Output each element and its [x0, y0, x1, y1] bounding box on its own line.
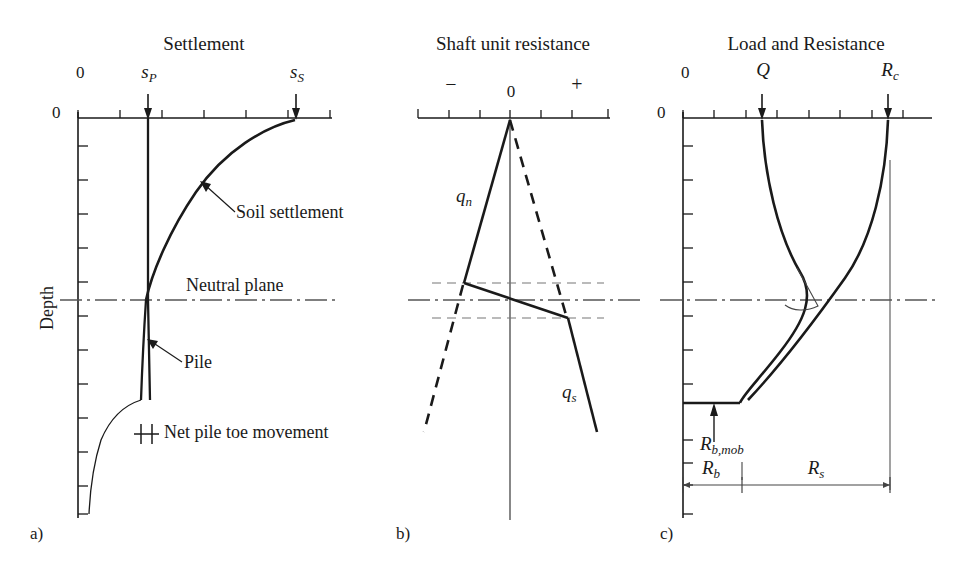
diagram-canvas — [0, 0, 954, 572]
pile-leader — [147, 339, 182, 362]
panel-b-title: Shaft unit resistance — [436, 34, 590, 53]
total-resistance-marker-arrow — [884, 94, 892, 120]
positive-shaft-resistance-symbol-base: q — [562, 381, 572, 402]
panel-a-id: a) — [30, 525, 43, 542]
pile-settlement-symbol: sP — [141, 62, 156, 84]
mobilized-toe-resistance-symbol-sub: b,mob — [712, 442, 744, 457]
panel-c-horizontal-zero-label: 0 — [681, 64, 690, 81]
panel-a-depth-ticks — [78, 146, 88, 514]
pile-annotation: Pile — [184, 353, 212, 371]
panel-a-title: Settlement — [163, 34, 244, 53]
total-resistance-symbol-sub: c — [893, 68, 899, 83]
panel-b-zero-label: 0 — [507, 83, 516, 100]
toe-resistance-symbol-sub: b — [714, 466, 721, 481]
pile-settlement-symbol-sub: P — [149, 70, 157, 85]
net-pile-toe-movement-annotation: Net pile toe movement — [164, 423, 328, 441]
soil-settlement-symbol: sS — [290, 62, 304, 84]
panel-b-minus-sign: − — [445, 74, 456, 94]
depth-axis-label: Depth — [38, 286, 56, 330]
applied-load-marker-arrow — [758, 94, 766, 120]
soil-settlement-curve-lower — [141, 300, 146, 400]
panel-b-ticks — [418, 109, 608, 118]
shaft-resistance-symbol: Rs — [808, 458, 825, 480]
positive-shaft-resistance-symbol: qs — [562, 382, 577, 404]
load-distribution-curve — [740, 120, 807, 403]
negative-shaft-resistance-symbol-sub: n — [466, 194, 473, 209]
mobilized-toe-resistance-symbol: Rb,mob — [700, 434, 744, 456]
pile-settlement-marker-arrow — [144, 94, 152, 120]
applied-load-symbol-base: Q — [756, 59, 770, 80]
positive-shaft-resistance-symbol-sub: s — [572, 390, 577, 405]
mobilized-toe-resistance-symbol-base: R — [700, 433, 712, 454]
panel-c-title: Load and Resistance — [727, 34, 884, 53]
toe-resistance-symbol: Rb — [702, 458, 720, 480]
total-resistance-symbol-base: R — [881, 59, 893, 80]
shaft-resistance-dashed-upper — [510, 120, 566, 315]
panel-a-top-ticks — [78, 110, 330, 118]
resistance-distribution-curve — [748, 120, 888, 400]
total-resistance-symbol: Rc — [881, 60, 898, 82]
toe-resistance-symbol-base: R — [702, 457, 714, 478]
net-pile-toe-movement-gauge — [134, 424, 159, 444]
soil-settlement-leader — [200, 181, 235, 212]
shaft-resistance-dashed-lower — [424, 285, 463, 432]
panel-c-depth-zero-label: 0 — [657, 104, 666, 121]
applied-load-symbol: Q — [756, 60, 770, 82]
neutral-plane-annotation: Neutral plane — [186, 276, 283, 294]
pile-settlement-resistance-figure: Settlement 0 0 sP sS Depth Soil settleme… — [0, 0, 954, 572]
panel-c-top-ticks — [683, 110, 903, 118]
panel-c-depth-ticks — [683, 146, 693, 514]
positive-shaft-resistance-line — [568, 318, 597, 432]
shaft-resistance-symbol-sub: s — [819, 466, 824, 481]
shaft-resistance-symbol-base: R — [808, 457, 820, 478]
soil-settlement-symbol-sub: S — [297, 70, 304, 85]
soil-settlement-marker-arrow — [292, 94, 300, 120]
pile-settlement-line — [148, 118, 150, 400]
panel-a-depth-zero-label: 0 — [52, 104, 61, 121]
panel-a-horizontal-zero-label: 0 — [76, 64, 85, 81]
panel-b-graphics — [408, 109, 640, 520]
panel-a-graphics — [60, 94, 340, 518]
panel-b-plus-sign: + — [571, 74, 582, 94]
soil-settlement-annotation: Soil settlement — [236, 203, 344, 221]
panel-b-id: b) — [396, 525, 410, 542]
panel-c-id: c) — [660, 525, 673, 542]
pile-toe-movement-curve — [89, 400, 141, 514]
negative-shaft-resistance-symbol: qn — [456, 186, 472, 208]
negative-shaft-resistance-symbol-base: q — [456, 185, 466, 206]
